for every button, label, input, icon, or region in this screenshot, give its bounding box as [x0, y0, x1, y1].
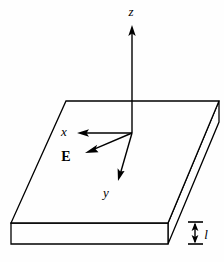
figure-container: z x y E l [0, 0, 224, 262]
electric-field-label: E [61, 149, 70, 164]
slab-top-face [11, 101, 219, 223]
thickness-dimension-group: l [188, 222, 208, 244]
z-axis-label: z [127, 4, 133, 19]
x-axis-label: x [60, 124, 67, 139]
thickness-label: l [204, 227, 208, 242]
y-axis-label: y [101, 185, 109, 200]
slab-front-face [11, 223, 168, 244]
slab-coordinate-diagram: z x y E l [0, 0, 224, 262]
slab-group [11, 101, 219, 244]
